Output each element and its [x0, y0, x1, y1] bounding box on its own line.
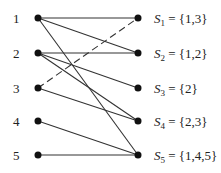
left-node-5: [35, 152, 42, 159]
edge-3-S4: [38, 88, 138, 121]
right-node-S5: [135, 152, 142, 159]
set-label: S4 = {2,3}: [154, 114, 208, 131]
edge-1-S2: [38, 18, 138, 53]
left-node-label: 2: [13, 46, 20, 61]
left-node-label: 4: [13, 114, 20, 129]
left-node-2: [35, 50, 42, 57]
set-label: S2 = {1,2}: [154, 46, 208, 63]
left-node-3: [35, 85, 42, 92]
left-node-label: 3: [13, 81, 20, 96]
left-node-label: 5: [13, 148, 20, 163]
edge-2-S3: [38, 53, 138, 88]
left-node-4: [35, 118, 42, 125]
left-node-label: 1: [13, 11, 20, 26]
right-node-S2: [135, 50, 142, 57]
right-node-S1: [135, 15, 142, 22]
edge-4-S5: [38, 121, 138, 155]
set-label: S1 = {1,3}: [154, 11, 208, 28]
right-node-S3: [135, 85, 142, 92]
right-node-S4: [135, 118, 142, 125]
bipartite-diagram: 12345S1 = {1,3}S2 = {1,2}S3 = {2}S4 = {2…: [0, 0, 221, 173]
set-label: S3 = {2}: [154, 81, 198, 98]
graph-svg: 12345S1 = {1,3}S2 = {1,2}S3 = {2}S4 = {2…: [0, 0, 221, 173]
set-label: S5 = {1,4,5}: [154, 148, 217, 165]
edge-2-S4: [38, 53, 138, 121]
left-node-1: [35, 15, 42, 22]
